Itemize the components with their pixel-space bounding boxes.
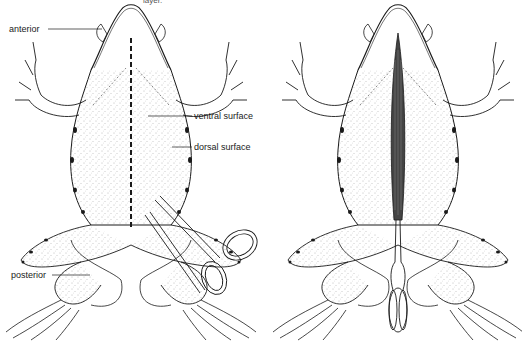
right-frog-drawing	[273, 5, 522, 340]
label-dorsal-surface: dorsal surface	[194, 142, 251, 152]
label-anterior: anterior	[9, 24, 40, 34]
label-posterior: posterior	[11, 270, 46, 280]
forceps-icon	[389, 220, 407, 332]
frog-dissection-figure	[0, 0, 522, 342]
label-ventral-surface: ventral surface	[194, 111, 253, 121]
